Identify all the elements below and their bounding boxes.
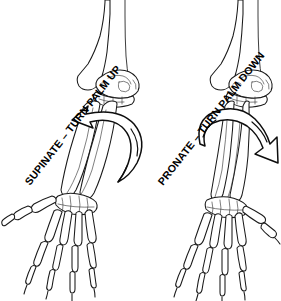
panel-supination: SUPINATE – TURN PALM UP	[2, 0, 142, 301]
anatomy-illustration: SUPINATE – TURN PALM UP	[0, 0, 281, 301]
anatomy-figure: SUPINATE – TURN PALM UP	[0, 0, 281, 301]
panel-pronation: PRONATE – TURN PALM DOWN	[155, 0, 280, 301]
